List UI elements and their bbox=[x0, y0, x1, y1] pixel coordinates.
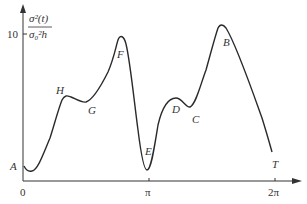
point-label-e: E bbox=[144, 145, 152, 157]
y-axis-arrow-icon bbox=[20, 4, 26, 13]
x-tick-label-0: 0 bbox=[20, 186, 26, 198]
point-label-d: D bbox=[171, 103, 180, 115]
figure: 10 σ²(t) σ₀²h 0 π 2π A H G F E D C B T bbox=[0, 0, 307, 204]
y-axis-label-denominator: σ₀²h bbox=[29, 28, 48, 40]
point-label-c: C bbox=[192, 113, 200, 125]
point-label-t: T bbox=[272, 158, 279, 170]
y-axis-label-numerator: σ²(t) bbox=[29, 12, 48, 25]
point-label-g: G bbox=[88, 104, 96, 116]
point-label-a: A bbox=[9, 160, 17, 172]
x-axis-arrow-icon bbox=[292, 178, 302, 184]
y-tick-label-10: 10 bbox=[7, 28, 19, 40]
point-label-h: H bbox=[55, 84, 65, 96]
point-label-f: F bbox=[116, 48, 124, 60]
point-label-b: B bbox=[223, 36, 230, 48]
x-tick-label-pi: π bbox=[145, 186, 151, 198]
x-tick-label-2pi: 2π bbox=[268, 186, 280, 198]
